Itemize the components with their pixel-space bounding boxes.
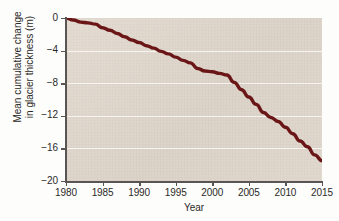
x-axis-title: Year xyxy=(66,202,322,213)
y-tick-label: −12 xyxy=(41,109,58,120)
x-tick-label: 1995 xyxy=(156,187,196,198)
x-tick-label: 2005 xyxy=(229,187,269,198)
x-tick xyxy=(66,182,67,186)
x-tick xyxy=(322,182,323,186)
x-tick xyxy=(139,182,140,186)
data-series-layer xyxy=(66,18,322,181)
x-tick xyxy=(212,182,213,186)
y-tick xyxy=(61,51,65,52)
x-tick xyxy=(249,182,250,186)
x-tick-label: 2010 xyxy=(265,187,305,198)
y-axis-title-line-1: Mean cumulative change xyxy=(12,0,24,147)
y-axis-line xyxy=(65,17,67,182)
y-tick xyxy=(61,181,65,182)
x-tick-label: 2000 xyxy=(192,187,232,198)
chart-figure: 0−4−8−12−16−20 1980198519901995200020052… xyxy=(0,0,339,221)
y-tick-label: −20 xyxy=(41,175,58,186)
y-tick xyxy=(61,83,65,84)
y-tick-label: −8 xyxy=(47,77,58,88)
plot-area xyxy=(66,18,322,181)
x-tick-label: 1985 xyxy=(83,187,123,198)
y-tick-label: −4 xyxy=(47,44,58,55)
x-tick xyxy=(103,182,104,186)
x-tick-label: 2015 xyxy=(302,187,339,198)
x-tick xyxy=(176,182,177,186)
y-tick-label: 0 xyxy=(53,12,58,23)
glacier-thickness-line xyxy=(66,18,322,161)
y-axis-title-line-2: in glacier thickness (m) xyxy=(24,0,36,147)
y-tick xyxy=(61,18,65,19)
x-tick xyxy=(285,182,286,186)
y-tick xyxy=(61,116,65,117)
y-axis-title: Mean cumulative changein glacier thickne… xyxy=(12,0,36,147)
y-tick xyxy=(61,148,65,149)
y-tick-label: −16 xyxy=(41,142,58,153)
x-tick-label: 1980 xyxy=(46,187,86,198)
x-tick-label: 1990 xyxy=(119,187,159,198)
